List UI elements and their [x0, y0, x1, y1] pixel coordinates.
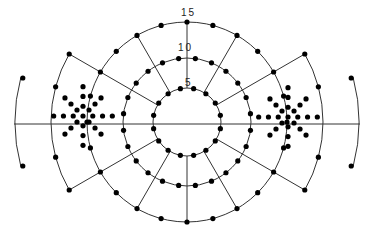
- right-star-dot: [285, 105, 290, 110]
- spoke-line: [137, 151, 170, 208]
- outer-ring-dot: [114, 49, 119, 54]
- inner-ring-dot: [178, 86, 183, 91]
- spoke-line: [204, 35, 237, 92]
- left-star-dot: [80, 143, 85, 148]
- outer-ring-dot: [184, 219, 189, 224]
- left-star-dot: [92, 101, 97, 106]
- inner-ring-dot: [218, 126, 223, 131]
- perimetry-chart: 15 10 5: [0, 0, 370, 242]
- right-star-dot: [256, 114, 261, 119]
- middle-ring-dot: [235, 80, 240, 85]
- outer-ring-dot: [88, 94, 93, 99]
- right-star-dot: [303, 132, 308, 137]
- wing-dot: [53, 84, 58, 89]
- outer-ring-dot: [184, 19, 189, 24]
- outer-ring-dot: [281, 94, 286, 99]
- wing-dot: [67, 187, 72, 192]
- middle-ring-dot: [145, 170, 150, 175]
- outer-ring-dot: [98, 169, 103, 174]
- middle-ring-dot: [134, 158, 139, 163]
- spoke-line: [204, 151, 237, 208]
- left-star-dot: [110, 113, 115, 118]
- right-far-arc: [353, 77, 359, 166]
- right-star-dot: [297, 102, 302, 107]
- left-star-dot: [68, 101, 73, 106]
- wing-connector: [274, 54, 305, 72]
- right-star-dot: [315, 114, 320, 119]
- inner-ring-dot: [156, 101, 161, 106]
- inner-ring-dot: [151, 126, 156, 131]
- right-star-dot: [285, 124, 290, 129]
- label-5: 5: [185, 77, 193, 88]
- spoke-line: [137, 35, 170, 92]
- left-star-dot: [51, 113, 56, 118]
- middle-ring-dot: [176, 183, 181, 188]
- inner-ring-dot: [166, 91, 171, 96]
- left-star-dot: [74, 107, 79, 112]
- outer-ring-dot: [210, 23, 215, 28]
- left-far-arc: [15, 77, 21, 166]
- wing-connector: [69, 54, 100, 72]
- outer-ring-dot: [210, 216, 215, 221]
- right-star-dot: [303, 96, 308, 101]
- outer-ring-dot: [255, 49, 260, 54]
- spoke-line: [216, 72, 273, 105]
- outer-ring-dot: [159, 216, 164, 221]
- middle-ring-dot: [134, 80, 139, 85]
- outer-ring-dot: [134, 206, 139, 211]
- middle-ring-dot: [193, 183, 198, 188]
- left-star-dot: [80, 104, 85, 109]
- inner-ring-dot: [151, 113, 156, 118]
- wing-connector: [274, 172, 305, 190]
- left-star-dot: [80, 94, 85, 99]
- far-arc-dot: [349, 163, 354, 168]
- left-star-dot: [68, 125, 73, 130]
- left-star-dot: [92, 125, 97, 130]
- outer-ring-dot: [255, 190, 260, 195]
- right-star-dot: [273, 102, 278, 107]
- left-star-dot: [100, 113, 105, 118]
- spoke-line: [100, 139, 157, 172]
- spoke-line: [100, 72, 157, 105]
- spoke-line: [216, 139, 273, 172]
- right-star-dot: [267, 96, 272, 101]
- inner-ring-dot: [203, 91, 208, 96]
- wing-dot: [302, 187, 307, 192]
- outer-ring-dot: [88, 145, 93, 150]
- wing-dot: [67, 51, 72, 56]
- middle-ring-dot: [235, 158, 240, 163]
- left-star-dot: [74, 119, 79, 124]
- middle-ring-dot: [244, 95, 249, 100]
- outer-ring-dot: [159, 23, 164, 28]
- middle-ring-dot: [209, 60, 214, 65]
- left-star-dot: [62, 131, 67, 136]
- wing-dot: [316, 155, 321, 160]
- right-star-center-dot: [285, 114, 290, 119]
- left-star-dot: [86, 107, 91, 112]
- middle-ring-dot: [125, 95, 130, 100]
- right-star-dot: [285, 85, 290, 90]
- left-star-dot: [71, 113, 76, 118]
- left-star-dot: [80, 133, 85, 138]
- inner-ring-dot: [213, 138, 218, 143]
- outer-ring-dot: [271, 69, 276, 74]
- middle-ring-dot: [223, 170, 228, 175]
- wing-dot: [302, 51, 307, 56]
- inner-ring-dot: [191, 153, 196, 158]
- label-10: 10: [178, 42, 193, 53]
- middle-ring-dot: [209, 179, 214, 184]
- far-arc-dot: [20, 163, 25, 168]
- outer-ring-dot: [98, 69, 103, 74]
- wing-connector: [69, 172, 100, 190]
- inner-ring-dot: [178, 153, 183, 158]
- middle-ring-dot: [248, 128, 253, 133]
- middle-ring-dot: [248, 111, 253, 116]
- left-star-center-dot: [80, 113, 85, 118]
- inner-circle: [153, 88, 221, 156]
- label-15: 15: [181, 7, 196, 18]
- middle-ring-dot: [121, 128, 126, 133]
- middle-ring-dot: [145, 69, 150, 74]
- outer-ring-dot: [271, 169, 276, 174]
- inner-ring-dot: [213, 101, 218, 106]
- outer-ring-dot: [114, 190, 119, 195]
